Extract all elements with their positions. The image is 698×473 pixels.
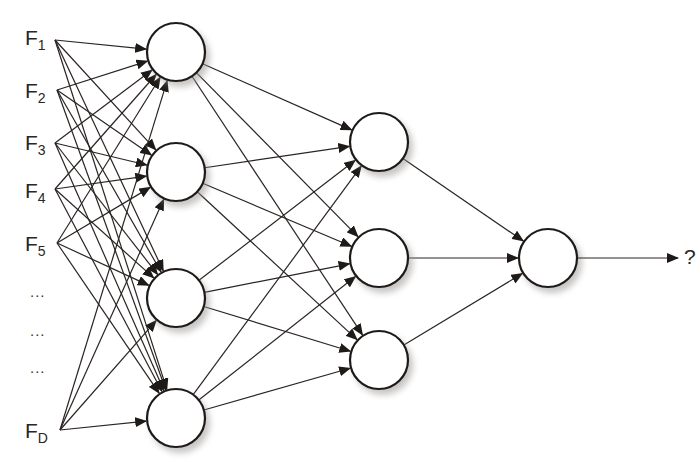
edge-arrow: [60, 199, 164, 430]
ellipsis-placeholder: ...: [30, 359, 46, 376]
edge-arrow: [403, 158, 523, 241]
output-node-1: [519, 229, 577, 287]
connection-edges: [55, 40, 523, 430]
hidden-2-node-3: [350, 331, 408, 389]
edge-arrow: [57, 61, 147, 90]
hidden-1-node-2: [147, 143, 205, 201]
input-label-FD: FD: [25, 419, 48, 446]
hidden-2-node-1: [350, 113, 408, 171]
hidden-1-node-4: [147, 389, 205, 447]
ellipsis-placeholder: ...: [30, 283, 46, 300]
edge-arrow: [193, 166, 361, 394]
input-label-F5: F5: [25, 232, 46, 259]
input-labels: F1F2F3F4F5FD.........: [25, 26, 48, 446]
neural-network-diagram: F1F2F3F4F5FD......... ?: [0, 0, 698, 473]
input-label-F2: F2: [25, 79, 46, 106]
edge-arrow: [203, 64, 352, 130]
input-label-F4: F4: [25, 179, 46, 206]
hidden-2-node-2: [350, 229, 408, 287]
edge-arrow: [55, 70, 152, 143]
edge-arrow: [55, 40, 156, 150]
network-nodes: [147, 23, 582, 453]
edge-arrow: [204, 264, 349, 293]
hidden-1-node-1: [147, 23, 205, 81]
edge-arrow: [57, 187, 150, 243]
edge-arrow: [60, 321, 156, 430]
edge-arrow: [205, 146, 350, 167]
output-arrow: ?: [577, 245, 696, 268]
input-label-F3: F3: [25, 131, 46, 158]
edge-arrow: [55, 143, 147, 165]
edge-arrow: [199, 277, 356, 400]
input-label-F1: F1: [25, 26, 46, 53]
output-label-question-mark: ?: [684, 245, 696, 268]
edge-arrow: [199, 160, 355, 280]
edge-arrow: [192, 76, 363, 335]
edge-arrow: [55, 40, 146, 49]
edge-arrow: [203, 183, 352, 246]
edge-arrow: [197, 192, 357, 340]
edge-arrow: [60, 421, 146, 430]
edge-arrow: [404, 274, 522, 346]
ellipsis-placeholder: ...: [30, 322, 46, 339]
hidden-1-node-3: [147, 269, 205, 327]
edge-arrow: [55, 176, 146, 189]
edge-arrow: [204, 368, 350, 410]
